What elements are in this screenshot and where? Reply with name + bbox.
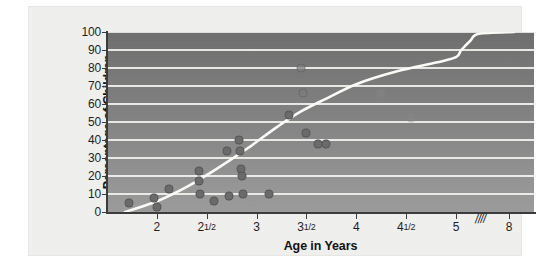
x-axis-tick-label: 41/2 <box>397 220 415 234</box>
x-axis-tick-label: 21/2 <box>198 220 216 234</box>
scatter-point <box>238 190 247 199</box>
y-axis-tick <box>102 212 107 213</box>
y-axis-tick-label: 50 <box>67 115 101 129</box>
x-axis-tick <box>207 213 208 219</box>
scatter-point <box>264 190 273 199</box>
scatter-point <box>224 191 233 200</box>
y-axis-tick <box>102 140 107 141</box>
scatter-point <box>209 197 218 206</box>
x-axis-tick <box>306 213 307 219</box>
y-axis-tick <box>102 32 107 33</box>
scatter-point <box>237 172 246 181</box>
scatter-point <box>195 190 204 199</box>
y-axis-tick-labels: 0102030405060708090100 <box>63 32 101 212</box>
y-axis-tick <box>102 176 107 177</box>
x-axis-tick <box>157 213 158 219</box>
x-axis-tick-label: 3 <box>253 220 259 234</box>
y-axis-tick-label: 40 <box>67 133 101 147</box>
scatter-point <box>124 199 133 208</box>
y-axis-tick <box>102 50 107 51</box>
x-axis-tick-label: 5 <box>453 220 459 234</box>
scatter-point <box>322 139 331 148</box>
scatter-point <box>149 193 158 202</box>
y-axis-tick <box>102 86 107 87</box>
x-axis-tick-label: 31/2 <box>297 220 315 234</box>
scatter-point <box>234 136 243 145</box>
scatter-point <box>285 110 294 119</box>
y-axis-tick-label: 90 <box>67 43 101 57</box>
y-axis-tick-label: 80 <box>67 61 101 75</box>
scatter-point <box>407 114 416 123</box>
y-axis-tick <box>102 104 107 105</box>
scatter-point <box>194 166 203 175</box>
scanned-figure-panel: Percentage of Children 01020304050607080… <box>28 6 522 256</box>
y-axis-tick-label: 60 <box>67 97 101 111</box>
scatter-point <box>235 146 244 155</box>
y-axis-tick-label: 10 <box>67 187 101 201</box>
y-axis-tick <box>102 194 107 195</box>
y-axis-tick-label: 20 <box>67 169 101 183</box>
y-axis-tick-label: 100 <box>67 25 101 39</box>
x-axis-tick <box>257 213 258 219</box>
plot-area <box>107 32 534 212</box>
chart-page: Percentage of Children 01020304050607080… <box>0 0 546 266</box>
y-axis-tick <box>102 122 107 123</box>
y-axis-tick <box>102 158 107 159</box>
scatter-point <box>297 64 306 73</box>
y-axis-tick-label: 0 <box>67 205 101 219</box>
scatter-point <box>299 89 308 98</box>
x-axis-title: Age in Years <box>107 239 534 253</box>
x-axis-tick <box>456 213 457 219</box>
scatter-point <box>222 146 231 155</box>
x-axis-tick-label: 2 <box>154 220 160 234</box>
y-axis-tick-label: 70 <box>67 79 101 93</box>
x-axis-tick <box>356 213 357 219</box>
x-axis-tick-label: 4 <box>353 220 359 234</box>
x-axis-tick <box>509 213 510 219</box>
x-axis-line <box>106 212 536 214</box>
y-axis-tick-label: 30 <box>67 151 101 165</box>
scatter-point <box>152 202 161 211</box>
y-axis-tick <box>102 68 107 69</box>
scatter-point <box>302 128 311 137</box>
x-axis-tick <box>406 213 407 219</box>
scatter-point <box>194 177 203 186</box>
x-axis-tick-label: 8 <box>506 220 512 234</box>
axis-break-icon: //// <box>474 211 485 227</box>
scatter-point <box>164 184 173 193</box>
scatter-point <box>377 89 386 98</box>
